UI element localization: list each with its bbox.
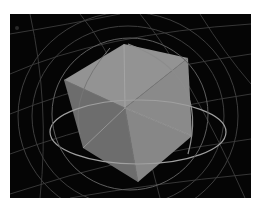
- viewport-dot: [15, 26, 19, 30]
- viewport-canvas[interactable]: [10, 14, 251, 198]
- 3d-viewport[interactable]: 3D viewport: [10, 14, 251, 198]
